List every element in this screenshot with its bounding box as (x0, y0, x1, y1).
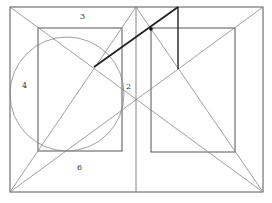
intersection-dot (149, 27, 153, 31)
apex-line-left (10, 7, 136, 192)
label-6: 6 (77, 163, 82, 172)
inscribed-circle (10, 37, 124, 151)
label-3: 3 (80, 12, 85, 21)
apex-line-right (136, 7, 263, 192)
label-2: 2 (126, 82, 131, 91)
geometry-diagram: 3 4 2 6 (0, 0, 272, 203)
label-4: 4 (22, 81, 27, 90)
